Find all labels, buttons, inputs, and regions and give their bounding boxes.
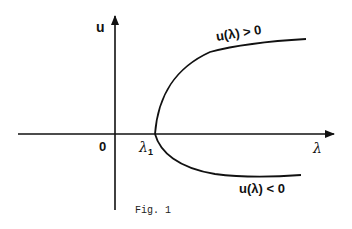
upper-branch-curve <box>155 39 306 134</box>
lambda-axis-label: λ <box>313 141 322 155</box>
lambda1-symbol: λ <box>139 139 148 155</box>
u-axis-label: u <box>96 20 105 34</box>
lower-branch-label: u(λ) < 0 <box>239 182 285 195</box>
origin-label: 0 <box>99 140 106 153</box>
diagram-canvas <box>0 0 352 229</box>
lambda1-subscript: 1 <box>148 147 153 157</box>
lower-branch-curve <box>155 134 301 177</box>
lambda1-label: λ1 <box>139 140 153 157</box>
bifurcation-diagram: u 0 λ1 λ u(λ) > 0 u(λ) < 0 Fig. 1 <box>0 0 352 229</box>
figure-caption: Fig. 1 <box>135 205 171 216</box>
